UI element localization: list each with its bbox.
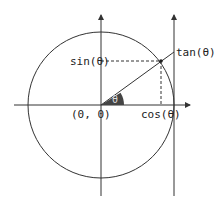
origin-label: (0, 0) [71,108,111,121]
angle-label: θ [112,94,118,105]
sin-label: sin(θ) [70,55,110,68]
unit-circle-diagram: θ sin(θ) tan(θ) (0, 0) cos(θ) [0,0,217,204]
cos-label: cos(θ) [141,108,181,121]
tan-label: tan(θ) [176,46,216,59]
circle-point [159,59,163,63]
